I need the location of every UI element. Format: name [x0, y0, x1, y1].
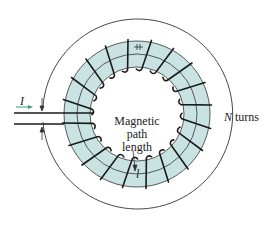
magnetic-path-length-label: Magnetic path length [105, 115, 169, 154]
turns-variable: N [224, 110, 232, 124]
current-arrow [16, 105, 33, 109]
current-label: I [20, 95, 24, 108]
turns-word: turns [235, 110, 259, 124]
n-turns-label: N turns [224, 111, 259, 124]
path-length-symbol: l [136, 168, 139, 181]
path-label-line3: length [105, 141, 169, 154]
